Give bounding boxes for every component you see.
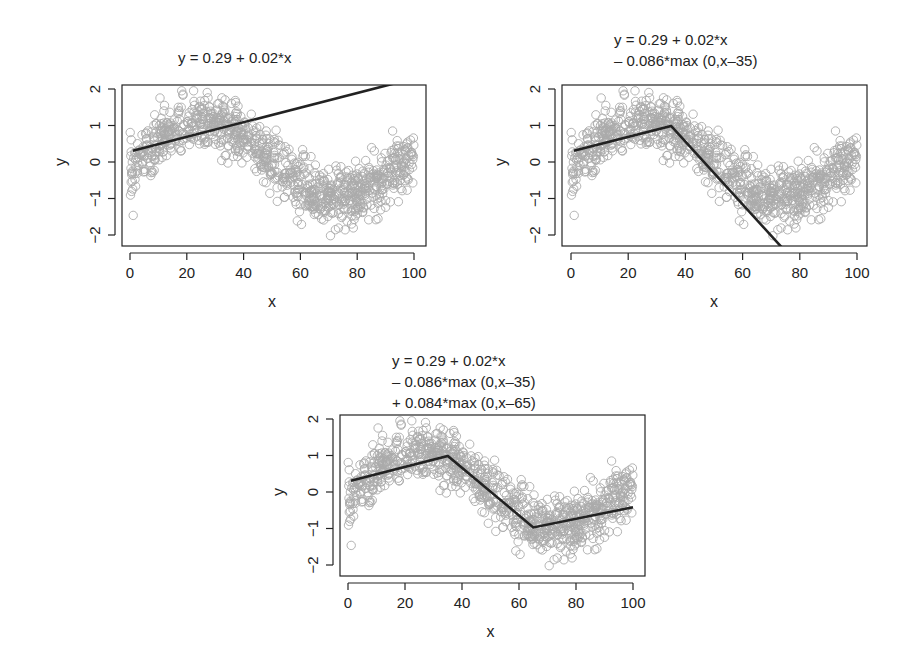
y-axis: −2−1012y bbox=[52, 85, 116, 244]
x-tick-label: 0 bbox=[567, 264, 575, 281]
panel-1: 020406080100x−2−1012y bbox=[52, 78, 427, 310]
x-tick-label: 80 bbox=[349, 264, 366, 281]
x-tick-label: 60 bbox=[292, 264, 309, 281]
x-axis-label: x bbox=[710, 293, 718, 310]
plot-canvas: 020406080100x−2−1012y020406080100x−2−101… bbox=[0, 0, 910, 667]
x-axis: 020406080100x bbox=[344, 583, 646, 640]
y-tick-label: 1 bbox=[304, 451, 321, 459]
panel-2: 020406080100x−2−1012y bbox=[492, 85, 870, 330]
x-tick-label: 40 bbox=[454, 594, 471, 611]
x-axis: 020406080100x bbox=[126, 253, 427, 310]
x-tick-label: 60 bbox=[734, 264, 751, 281]
x-tick-label: 20 bbox=[620, 264, 637, 281]
y-tick-label: −2 bbox=[86, 226, 103, 243]
x-tick-label: 20 bbox=[178, 264, 195, 281]
x-axis: 020406080100x bbox=[567, 253, 870, 310]
x-tick-label: 100 bbox=[620, 594, 645, 611]
scatter-points bbox=[567, 87, 861, 240]
x-tick-label: 0 bbox=[126, 264, 134, 281]
x-tick-label: 100 bbox=[844, 264, 869, 281]
y-tick-label: 2 bbox=[86, 85, 103, 93]
x-tick-label: 40 bbox=[235, 264, 252, 281]
y-tick-label: 1 bbox=[86, 121, 103, 129]
x-tick-label: 100 bbox=[401, 264, 426, 281]
y-tick-label: 0 bbox=[526, 158, 543, 166]
y-tick-label: 1 bbox=[526, 121, 543, 129]
y-tick-label: −1 bbox=[86, 190, 103, 207]
y-tick-label: 2 bbox=[526, 85, 543, 93]
x-axis-label: x bbox=[487, 623, 495, 640]
y-axis: −2−1012y bbox=[270, 415, 334, 574]
x-tick-label: 80 bbox=[791, 264, 808, 281]
y-tick-label: 2 bbox=[304, 415, 321, 423]
scatter-points bbox=[126, 87, 418, 240]
x-tick-label: 0 bbox=[344, 594, 352, 611]
y-tick-label: −2 bbox=[526, 226, 543, 243]
y-axis-label: y bbox=[492, 158, 509, 166]
y-tick-label: −2 bbox=[304, 556, 321, 573]
y-tick-label: −1 bbox=[526, 190, 543, 207]
panel-3: 020406080100x−2−1012y bbox=[270, 415, 646, 640]
figure: y = 0.29 + 0.02*x y = 0.29 + 0.02*x – 0.… bbox=[0, 0, 910, 667]
x-tick-label: 60 bbox=[511, 594, 528, 611]
y-tick-label: 0 bbox=[86, 158, 103, 166]
x-tick-label: 40 bbox=[677, 264, 694, 281]
x-axis-label: x bbox=[268, 293, 276, 310]
y-tick-label: −1 bbox=[304, 520, 321, 537]
y-axis-label: y bbox=[52, 158, 69, 166]
y-axis-label: y bbox=[270, 488, 287, 496]
y-tick-label: 0 bbox=[304, 488, 321, 496]
x-tick-label: 80 bbox=[568, 594, 585, 611]
y-axis: −2−1012y bbox=[492, 85, 556, 244]
x-tick-label: 20 bbox=[397, 594, 414, 611]
